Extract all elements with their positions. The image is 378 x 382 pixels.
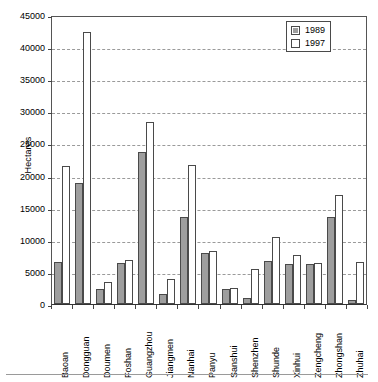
bar-group — [303, 17, 324, 304]
x-tick-mark — [283, 305, 284, 309]
x-tick-mark — [114, 305, 115, 309]
bar-group — [261, 17, 282, 304]
x-tick-mark — [51, 305, 52, 309]
bar-group — [345, 17, 366, 304]
y-tick-mark — [48, 145, 52, 146]
bar-1997-panyu — [209, 251, 217, 304]
chart-legend: 19891997 — [286, 21, 331, 52]
x-category-label-guangzhou: Guangzhou — [144, 331, 154, 378]
bar-1997-doumen — [104, 282, 112, 304]
legend-label: 1989 — [305, 25, 325, 35]
y-tick-label: 45000 — [1, 11, 45, 21]
y-tick-mark — [48, 81, 52, 82]
x-tick-mark — [198, 305, 199, 309]
bar-group — [240, 17, 261, 304]
bar-1997-zhuhai — [356, 262, 364, 304]
bar-1997-zengcheng — [314, 263, 322, 304]
bar-series-container — [52, 17, 366, 304]
bar-1989-zengcheng — [306, 264, 314, 304]
y-tick-label: 15000 — [1, 204, 45, 214]
bar-1989-xinhui — [285, 264, 293, 304]
bar-1997-dongguan — [83, 32, 91, 304]
bottom-divider — [6, 374, 368, 375]
bar-1989-dongguan — [75, 183, 83, 304]
empty-white-square-icon — [291, 39, 300, 48]
y-tick-label: 35000 — [1, 75, 45, 85]
y-tick-label: 5000 — [1, 268, 45, 278]
bar-1997-baoan — [62, 166, 70, 304]
bar-1997-foshan — [125, 260, 133, 304]
filled-gray-square-icon — [291, 26, 300, 35]
y-tick-mark — [48, 274, 52, 275]
bar-group — [199, 17, 220, 304]
bar-group — [178, 17, 199, 304]
y-axis-tick-labels: 0500010000150002000025000300003500040000… — [0, 0, 45, 382]
bar-1989-nanhai — [180, 217, 188, 304]
y-tick-mark — [48, 17, 52, 18]
x-tick-mark — [72, 305, 73, 309]
y-tick-label: 10000 — [1, 236, 45, 246]
bar-1997-zhongshan — [335, 195, 343, 304]
bar-1997-xinhui — [293, 255, 301, 304]
legend-entry-1997: 1997 — [291, 38, 325, 48]
x-tick-mark — [156, 305, 157, 309]
x-label-slot: Zhuhai — [346, 310, 378, 322]
bar-1989-guangzhou — [138, 152, 146, 304]
x-tick-mark — [325, 305, 326, 309]
bar-1989-baoan — [54, 262, 62, 304]
x-tick-mark — [262, 305, 263, 309]
bar-1989-zhongshan — [327, 217, 335, 304]
y-tick-mark — [48, 49, 52, 50]
x-category-label-zengcheng: Zengcheng — [313, 333, 323, 378]
bar-1989-jiangmen — [159, 294, 167, 304]
bar-1997-sanshui — [230, 288, 238, 304]
x-tick-mark — [177, 305, 178, 309]
bar-group — [220, 17, 241, 304]
bar-1997-shenzhen — [251, 269, 259, 304]
bar-group — [115, 17, 136, 304]
bar-1997-guangzhou — [146, 122, 154, 304]
x-tick-mark — [346, 305, 347, 309]
bar-group — [324, 17, 345, 304]
y-tick-mark — [48, 242, 52, 243]
x-tick-mark — [241, 305, 242, 309]
y-tick-label: 20000 — [1, 172, 45, 182]
x-axis-category-labels: BaoanDongguanDoumenFoshanGuangzhouJiangm… — [51, 310, 367, 380]
bar-1989-shunde — [264, 261, 272, 304]
bar-1989-sanshui — [222, 289, 230, 304]
x-tick-mark — [93, 305, 94, 309]
bar-1989-shenzhen — [243, 298, 251, 304]
bar-group — [52, 17, 73, 304]
y-tick-label: 30000 — [1, 107, 45, 117]
bar-1989-doumen — [96, 289, 104, 304]
bar-1997-shunde — [272, 237, 280, 304]
bar-group — [94, 17, 115, 304]
y-tick-mark — [48, 113, 52, 114]
x-tick-mark — [304, 305, 305, 309]
x-category-label-shenzhen: Shenzhen — [250, 337, 260, 378]
legend-label: 1997 — [305, 38, 325, 48]
x-category-label-zhongshan: Zhongshan — [334, 333, 344, 378]
y-tick-label: 25000 — [1, 139, 45, 149]
bar-1989-foshan — [117, 263, 125, 304]
x-category-label-doumen: Doumen — [102, 344, 112, 378]
plot-area — [51, 16, 367, 305]
bar-chart: Hectares 0500010000150002000025000300003… — [0, 0, 378, 382]
bar-1997-jiangmen — [167, 279, 175, 304]
bar-1989-zhuhai — [348, 300, 356, 304]
y-tick-mark — [48, 210, 52, 211]
bar-1997-nanhai — [188, 165, 196, 304]
legend-entry-1989: 1989 — [291, 25, 325, 35]
bar-group — [136, 17, 157, 304]
bar-group — [282, 17, 303, 304]
x-tick-mark — [135, 305, 136, 309]
x-category-label-jiangmen: Jiangmen — [165, 339, 175, 378]
bar-1989-panyu — [201, 253, 209, 304]
bar-group — [157, 17, 178, 304]
x-category-label-dongguan: Dongguan — [81, 336, 91, 378]
y-tick-mark — [48, 178, 52, 179]
y-tick-label: 0 — [1, 300, 45, 310]
x-tick-mark — [367, 305, 368, 309]
bar-group — [73, 17, 94, 304]
y-tick-label: 40000 — [1, 43, 45, 53]
